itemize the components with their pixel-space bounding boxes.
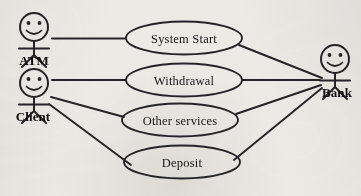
actor-client-label: Client bbox=[16, 109, 51, 124]
actor-bank-eye-right-icon bbox=[339, 53, 343, 57]
use-case-other-services-label: Other services bbox=[143, 114, 218, 128]
use-case-withdrawal[interactable]: Withdrawal bbox=[126, 64, 242, 97]
actor-client-eye-left-icon bbox=[27, 77, 31, 81]
use-case-system-start[interactable]: System Start bbox=[126, 22, 242, 55]
actor-bank-label: Bank bbox=[322, 85, 353, 100]
actor-atm-head-icon bbox=[20, 13, 48, 41]
actor-atm-smile-icon bbox=[27, 31, 42, 35]
actor-client-head-icon bbox=[20, 69, 48, 97]
use-case-other-services[interactable]: Other services bbox=[122, 104, 238, 137]
actor-atm-eye-left-icon bbox=[27, 21, 31, 25]
actor-client-eye-right-icon bbox=[38, 77, 42, 81]
use-case-system-start-label: System Start bbox=[151, 32, 217, 46]
actor-atm-label: ATM bbox=[19, 53, 49, 68]
actor-bank-smile-icon bbox=[328, 63, 343, 67]
actor-atm[interactable]: ATM bbox=[19, 13, 49, 68]
association-system-start-bank bbox=[239, 45, 322, 78]
actor-bank-eye-left-icon bbox=[328, 53, 332, 57]
actor-client[interactable]: Client bbox=[16, 69, 51, 124]
actor-client-smile-icon bbox=[27, 87, 42, 91]
use-case-diagram-canvas: ATM Client Bank bbox=[0, 0, 361, 196]
actor-bank-head-icon bbox=[321, 45, 349, 73]
association-client-deposit bbox=[49, 104, 131, 165]
use-case-deposit[interactable]: Deposit bbox=[124, 146, 240, 179]
use-case-deposit-label: Deposit bbox=[162, 156, 203, 170]
use-case-withdrawal-label: Withdrawal bbox=[154, 74, 215, 88]
actor-atm-eye-right-icon bbox=[38, 21, 42, 25]
actor-bank[interactable]: Bank bbox=[320, 45, 353, 100]
